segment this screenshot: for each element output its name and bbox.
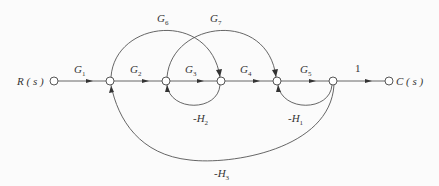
input-label: R ( s ) — [17, 76, 44, 87]
node-1 — [106, 77, 114, 85]
node-output — [385, 77, 393, 85]
gain-H1: -H1 — [288, 113, 303, 127]
node-input — [50, 77, 58, 85]
gain-sub: 7 — [218, 19, 222, 27]
gain-sub: 2 — [205, 119, 209, 127]
gain-base: -H — [214, 167, 226, 179]
output-label: C ( s ) — [396, 76, 423, 87]
gain-base: G — [210, 12, 218, 24]
gain-G2: G2 — [130, 64, 141, 78]
signal-flow-graph: R ( s ) C ( s ) G1 G2 G3 G4 G5 1 G6 G7 -… — [0, 0, 439, 186]
branch-G6 — [111, 30, 220, 77]
gain-G3: G3 — [185, 64, 196, 78]
node-4 — [273, 77, 281, 85]
gain-sub: 3 — [193, 70, 197, 78]
gain-G5: G5 — [300, 64, 311, 78]
gain-H2: -H2 — [193, 113, 208, 127]
gain-base: G — [74, 63, 82, 75]
gain-G7: G7 — [210, 13, 221, 27]
node-2 — [162, 77, 170, 85]
gain-G6: G6 — [157, 13, 168, 27]
gain-sub: 4 — [248, 70, 252, 78]
gain-sub: 5 — [308, 70, 312, 78]
gain-G1: G1 — [74, 64, 85, 78]
gain-sub: 3 — [226, 174, 230, 182]
branch-H1 — [278, 85, 332, 105]
gain-sub: 6 — [165, 19, 169, 27]
graph-edges — [0, 0, 439, 186]
node-3 — [217, 77, 225, 85]
gain-base: G — [130, 63, 138, 75]
gain-base: -H — [288, 112, 300, 124]
gain-base: G — [185, 63, 193, 75]
gain-H3: -H3 — [214, 168, 229, 182]
gain-G4: G4 — [240, 64, 251, 78]
gain-unity: 1 — [355, 63, 361, 74]
gain-sub: 2 — [138, 70, 142, 78]
branch-H2 — [167, 85, 220, 105]
gain-sub: 1 — [300, 119, 304, 127]
gain-base: G — [157, 12, 165, 24]
gain-sub: 1 — [82, 70, 86, 78]
gain-base: -H — [193, 112, 205, 124]
node-5 — [329, 77, 337, 85]
gain-base: G — [300, 63, 308, 75]
gain-base: G — [240, 63, 248, 75]
